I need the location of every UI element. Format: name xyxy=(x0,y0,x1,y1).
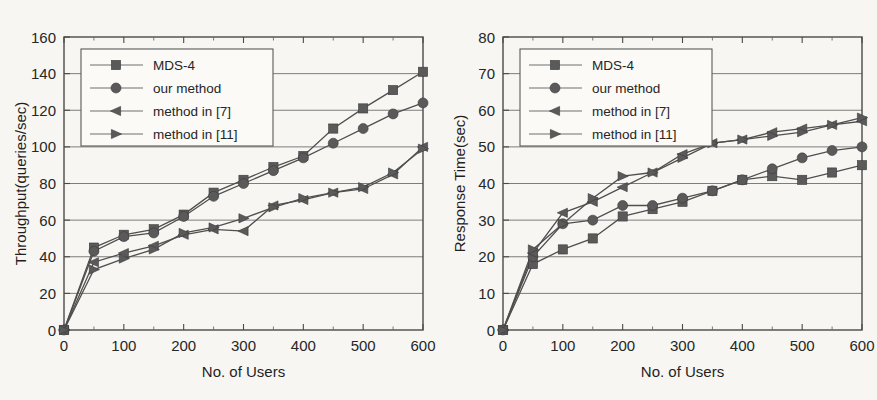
y-tick-label: 60 xyxy=(39,212,56,229)
circle-marker xyxy=(648,200,658,210)
x-tick-label: 0 xyxy=(499,337,507,354)
circle-marker xyxy=(149,228,159,238)
circle-marker xyxy=(678,193,688,203)
response-time-chart-svg: 010203040506070800100200300400500600No. … xyxy=(439,0,877,400)
circle-marker xyxy=(797,153,807,163)
y-tick-label: 140 xyxy=(31,65,56,82)
y-axis-title: Response Time(sec) xyxy=(451,115,468,253)
square-marker xyxy=(558,245,567,254)
circle-marker xyxy=(737,175,747,185)
circle-marker xyxy=(550,83,560,93)
x-tick-label: 100 xyxy=(550,337,575,354)
series-line xyxy=(503,165,862,330)
right-triangle-marker xyxy=(618,172,628,181)
x-tick-label: 0 xyxy=(60,337,68,354)
circle-marker xyxy=(618,200,628,210)
chart-0-root: 0204060801001201401600100200300400500600… xyxy=(12,29,436,381)
series-line xyxy=(503,147,862,330)
x-tick-label: 600 xyxy=(849,337,874,354)
circle-marker xyxy=(239,179,249,189)
y-tick-label: 0 xyxy=(48,322,56,339)
circle-marker xyxy=(588,215,598,225)
legend-entry-label: method in [7] xyxy=(592,104,670,119)
square-marker xyxy=(798,175,807,184)
left-triangle-marker xyxy=(238,227,248,236)
circle-marker xyxy=(119,232,129,242)
y-tick-label: 20 xyxy=(478,248,495,265)
square-marker xyxy=(329,124,338,133)
circle-marker xyxy=(209,191,219,201)
square-marker xyxy=(588,234,597,243)
y-tick-label: 20 xyxy=(39,285,56,302)
y-tick-label: 40 xyxy=(478,175,495,192)
right-triangle-marker xyxy=(239,214,249,223)
y-tick-label: 80 xyxy=(478,29,495,46)
y-tick-label: 160 xyxy=(31,29,56,46)
circle-marker xyxy=(418,98,428,108)
circle-marker xyxy=(179,211,189,221)
circle-marker xyxy=(358,124,368,134)
y-tick-label: 40 xyxy=(39,248,56,265)
y-tick-label: 120 xyxy=(31,102,56,119)
square-marker xyxy=(857,161,866,170)
square-marker xyxy=(111,60,120,69)
circle-marker xyxy=(857,142,867,152)
y-axis-title: Throughput(queries/sec) xyxy=(12,102,29,265)
legend-entry-label: our method xyxy=(592,81,660,96)
chart-1-root: 010203040506070800100200300400500600No. … xyxy=(451,29,875,381)
legend-entry-label: method in [11] xyxy=(153,127,238,142)
legend-entry-label: method in [7] xyxy=(153,104,231,119)
y-tick-label: 0 xyxy=(487,322,495,339)
x-tick-label: 500 xyxy=(351,337,376,354)
series-line xyxy=(64,147,423,330)
y-tick-label: 30 xyxy=(478,212,495,229)
x-tick-label: 200 xyxy=(171,337,196,354)
chart-panel-response-time: 010203040506070800100200300400500600No. … xyxy=(439,0,877,400)
series-line xyxy=(503,118,862,330)
circle-marker xyxy=(89,246,99,256)
x-axis-title: No. of Users xyxy=(641,363,724,380)
y-tick-label: 100 xyxy=(31,138,56,155)
figure-container: 0204060801001201401600100200300400500600… xyxy=(0,0,877,400)
y-tick-label: 70 xyxy=(478,65,495,82)
x-tick-label: 200 xyxy=(610,337,635,354)
circle-marker xyxy=(298,153,308,163)
y-tick-label: 80 xyxy=(39,175,56,192)
throughput-chart-svg: 0204060801001201401600100200300400500600… xyxy=(0,0,438,400)
circle-marker xyxy=(827,146,837,156)
chart-panel-throughput: 0204060801001201401600100200300400500600… xyxy=(0,0,438,400)
x-tick-label: 400 xyxy=(291,337,316,354)
x-tick-label: 600 xyxy=(410,337,435,354)
square-marker xyxy=(418,67,427,76)
legend-entry-label: our method xyxy=(153,81,221,96)
circle-marker xyxy=(707,186,717,196)
x-tick-label: 300 xyxy=(231,337,256,354)
circle-marker xyxy=(388,109,398,119)
square-marker xyxy=(388,86,397,95)
circle-marker xyxy=(328,138,338,148)
square-marker xyxy=(550,60,559,69)
circle-marker xyxy=(767,164,777,174)
x-tick-label: 100 xyxy=(111,337,136,354)
left-triangle-marker xyxy=(557,208,567,217)
x-tick-label: 400 xyxy=(730,337,755,354)
y-tick-label: 60 xyxy=(478,102,495,119)
y-tick-label: 50 xyxy=(478,138,495,155)
x-tick-label: 300 xyxy=(670,337,695,354)
y-tick-label: 10 xyxy=(478,285,495,302)
legend-entry-label: method in [11] xyxy=(592,127,677,142)
legend-entry-label: MDS-4 xyxy=(153,58,195,73)
circle-marker xyxy=(268,166,278,176)
square-marker xyxy=(827,168,836,177)
x-tick-label: 500 xyxy=(790,337,815,354)
legend-entry-label: MDS-4 xyxy=(592,58,634,73)
square-marker xyxy=(359,104,368,113)
x-axis-title: No. of Users xyxy=(202,363,285,380)
square-marker xyxy=(618,212,627,221)
circle-marker xyxy=(111,83,121,93)
